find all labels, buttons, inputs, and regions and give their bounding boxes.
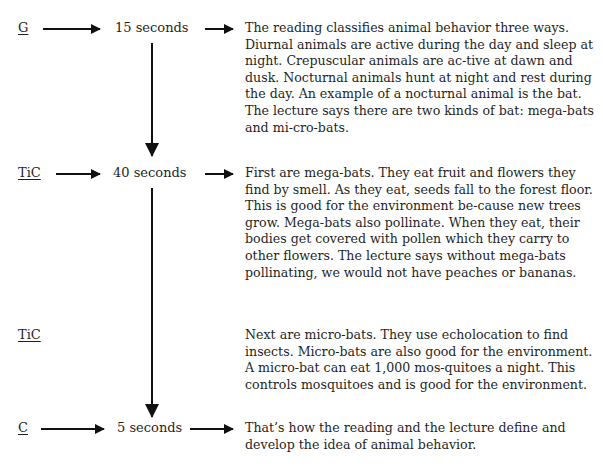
arrows-layer — [0, 0, 603, 466]
